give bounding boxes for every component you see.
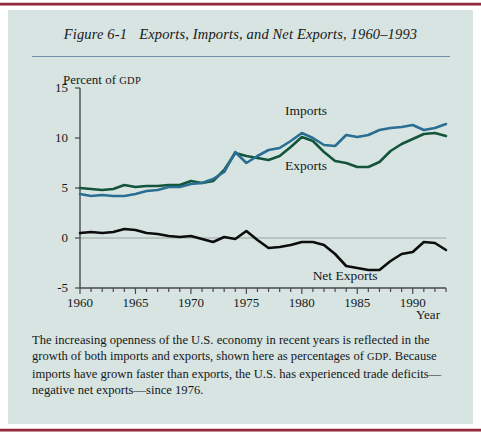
y-tick-label: 10 bbox=[42, 130, 68, 146]
series-line-net-exports bbox=[80, 229, 446, 270]
bottom-rule-divider bbox=[0, 428, 481, 432]
line-chart-svg bbox=[8, 62, 473, 327]
y-tick-label: 5 bbox=[42, 180, 68, 196]
y-tick-label: 0 bbox=[42, 230, 68, 246]
top-rule-divider bbox=[0, 2, 481, 6]
x-tick-label: 1970 bbox=[168, 295, 214, 311]
x-tick-label: 1975 bbox=[223, 295, 269, 311]
y-axis-title: Percent of GDP bbox=[63, 72, 141, 88]
chart-area: Percent of GDP Year 151050-5 19601965197… bbox=[8, 62, 473, 327]
figure-number: Figure 6-1 bbox=[64, 26, 127, 42]
figure-caption: The increasing openness of the U.S. econ… bbox=[32, 332, 452, 399]
x-tick-label: 1985 bbox=[334, 295, 380, 311]
title-underline bbox=[32, 56, 450, 57]
series-label-net-exports: Net Exports bbox=[313, 268, 378, 284]
x-tick-label: 1980 bbox=[279, 295, 325, 311]
figure-panel: Figure 6-1Exports, Imports, and Net Expo… bbox=[8, 10, 473, 424]
figure-title: Figure 6-1Exports, Imports, and Net Expo… bbox=[8, 26, 473, 43]
x-axis-ticks bbox=[80, 288, 446, 294]
caption-gdp: GDP bbox=[367, 351, 388, 362]
figure-page: Figure 6-1Exports, Imports, and Net Expo… bbox=[0, 0, 481, 440]
figure-title-text: Exports, Imports, and Net Exports, 1960–… bbox=[139, 26, 417, 42]
y-axis-title-gdp: GDP bbox=[119, 75, 141, 86]
x-tick-label: 1990 bbox=[390, 295, 436, 311]
series-line-exports bbox=[80, 133, 446, 190]
x-tick-label: 1960 bbox=[57, 295, 103, 311]
series-label-exports: Exports bbox=[285, 158, 327, 174]
x-tick-label: 1965 bbox=[112, 295, 158, 311]
y-axis-title-prefix: Percent of bbox=[63, 72, 119, 87]
y-tick-label: 15 bbox=[42, 80, 68, 96]
series-label-imports: Imports bbox=[285, 103, 327, 119]
y-tick-label: -5 bbox=[42, 280, 68, 296]
